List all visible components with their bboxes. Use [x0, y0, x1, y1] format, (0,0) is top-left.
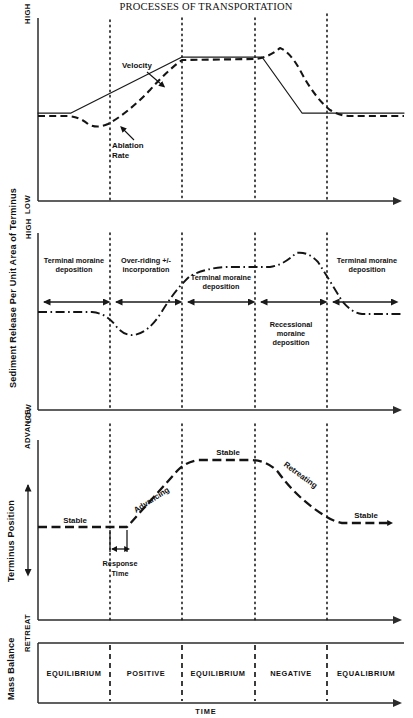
leader-ablation-rate: [124, 130, 134, 140]
annotation-stable-3: Stable: [354, 511, 378, 520]
panel-sediment-release: Sediment Release Per Unit Area of Termin…: [8, 188, 404, 423]
zone-label-3-line1: Terminal moraine: [191, 273, 251, 282]
zone-label-1-line2: deposition: [56, 265, 93, 274]
zone-label-3-line2: deposition: [203, 282, 240, 291]
response-time-bracket: [110, 530, 127, 552]
zone-label-4-line2: moraine: [277, 329, 305, 338]
panel-terminus-position: Terminus Position ADVANCE RETREAT Stable…: [6, 409, 394, 652]
x-axis-title: TIME: [195, 707, 216, 716]
panel3-ytick-advance: ADVANCE: [23, 409, 32, 449]
zone-label-4-line3: deposition: [273, 338, 310, 347]
annotation-response-time-line1: Response: [103, 559, 138, 568]
zone-label-1-line1: Terminal moraine: [44, 256, 104, 265]
leader-velocity: [147, 72, 161, 84]
annotation-stable-1: Stable: [63, 516, 87, 525]
panel3-y-axis-label: Terminus Position: [6, 500, 16, 582]
annotation-ablation-rate-line2: Rate: [112, 151, 130, 160]
panel3-ytick-retreat: RETREAT: [23, 614, 32, 652]
curve-ablation-rate: [38, 48, 404, 127]
mass-balance-cell-5: EQUALIBRIUM: [337, 669, 395, 678]
panel4-y-axis-label: Mass Balance: [6, 637, 16, 700]
zone-label-2-line1: Over-riding +/-: [121, 256, 172, 265]
panel-mass-balance: Mass Balance EQUILIBRIUM POSITIVE EQUILI…: [6, 637, 404, 703]
zone-label-4-line1: Recessional: [270, 320, 313, 329]
zone-label-2-line2: incorporation: [122, 265, 169, 274]
curve-velocity: [38, 57, 404, 113]
zone-label-5-line2: deposition: [349, 265, 386, 274]
annotation-ablation-rate-line1: Ablation: [112, 141, 144, 150]
annotation-response-time-line2: Time: [112, 569, 129, 578]
mass-balance-cell-2: POSITIVE: [127, 669, 166, 678]
panel2-ytick-high: HIGH: [24, 218, 33, 239]
mass-balance-cell-3: EQUILIBRIUM: [191, 669, 246, 678]
panel1-ytick-low: LOW: [23, 195, 32, 214]
figure-root: PROCESSES OF TRANSPORTATION HIGH LOW Vel…: [0, 0, 413, 718]
mass-balance-cell-4: NEGATIVE: [270, 669, 312, 678]
page-title: PROCESSES OF TRANSPORTATION: [120, 1, 293, 12]
mass-balance-cell-1: EQUILIBRIUM: [47, 669, 102, 678]
processes-of-transportation-diagram: PROCESSES OF TRANSPORTATION HIGH LOW Vel…: [0, 0, 413, 718]
panel1-ytick-high: HIGH: [23, 3, 32, 24]
panel-processes-of-transportation: HIGH LOW Velocity Ablation Rate: [23, 3, 404, 214]
annotation-stable-2: Stable: [216, 448, 240, 457]
annotation-advancing: Advancing: [132, 485, 171, 515]
curve-terminus-position: [38, 460, 388, 527]
panel2-y-axis-label: Sediment Release Per Unit Area of Termin…: [8, 188, 18, 388]
annotation-velocity: Velocity: [122, 61, 152, 70]
zone-label-5-line1: Terminal moraine: [337, 256, 397, 265]
